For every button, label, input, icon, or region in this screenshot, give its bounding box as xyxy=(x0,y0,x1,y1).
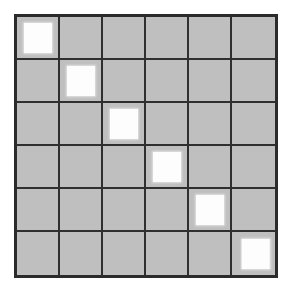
matrix-cell-empty xyxy=(146,103,189,146)
matrix-cell-empty xyxy=(17,146,60,189)
matrix-cell-empty xyxy=(103,17,146,60)
matrix-cell-empty xyxy=(189,232,232,275)
matrix-cell-empty xyxy=(232,17,275,60)
matrix-cell-filled xyxy=(60,60,103,103)
matrix-cell-empty xyxy=(232,146,275,189)
matrix-cell-empty xyxy=(17,60,60,103)
matrix-cell-empty xyxy=(146,232,189,275)
cell-marker-square xyxy=(24,23,52,53)
matrix-cell-empty xyxy=(60,232,103,275)
matrix-cell-empty xyxy=(17,232,60,275)
matrix-cell-empty xyxy=(146,60,189,103)
cell-marker-square xyxy=(110,109,138,139)
matrix-cell-empty xyxy=(146,17,189,60)
matrix-cell-empty xyxy=(103,232,146,275)
matrix-cell-empty xyxy=(189,146,232,189)
matrix-cell-filled xyxy=(232,232,275,275)
matrix-cell-empty xyxy=(189,17,232,60)
matrix-cell-empty xyxy=(189,103,232,146)
matrix-cell-empty xyxy=(103,189,146,232)
matrix-cell-empty xyxy=(103,60,146,103)
matrix-cell-empty xyxy=(232,60,275,103)
matrix-cell-filled xyxy=(189,189,232,232)
matrix-cell-empty xyxy=(60,103,103,146)
matrix-cell-empty xyxy=(17,103,60,146)
matrix-cell-empty xyxy=(60,146,103,189)
matrix-cell-empty xyxy=(232,103,275,146)
matrix-cell-filled xyxy=(103,103,146,146)
matrix-cell-empty xyxy=(103,146,146,189)
matrix-cell-empty xyxy=(232,189,275,232)
matrix-cell-empty xyxy=(60,17,103,60)
cell-marker-square xyxy=(196,195,224,225)
matrix-cell-empty xyxy=(146,189,189,232)
matrix-grid-figure xyxy=(14,14,278,278)
cell-marker-square xyxy=(241,239,269,269)
matrix-cell-empty xyxy=(17,189,60,232)
cell-marker-square xyxy=(67,66,95,96)
matrix-cell-filled xyxy=(17,17,60,60)
matrix-cell-empty xyxy=(189,60,232,103)
matrix-cell-grid xyxy=(17,17,275,275)
cell-marker-square xyxy=(153,152,181,182)
matrix-cell-filled xyxy=(146,146,189,189)
matrix-cell-empty xyxy=(60,189,103,232)
